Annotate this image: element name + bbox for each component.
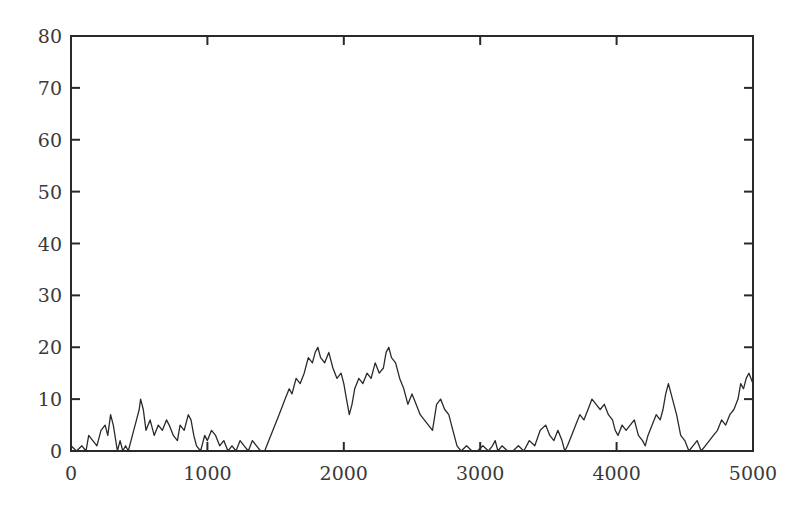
axis-ticks [71,36,753,451]
y-tick-label: 30 [38,284,62,306]
plot-frame [71,36,753,451]
line-chart: 01020304050607080 010002000300040005000 [0,0,809,511]
x-tick-label: 0 [65,462,77,484]
y-tick-label: 0 [50,440,62,462]
x-tick-label: 1000 [183,462,231,484]
plot-border [71,36,753,451]
y-tick-label: 10 [38,388,62,410]
y-tick-label: 50 [38,181,62,203]
y-axis-tick-labels: 01020304050607080 [38,25,62,462]
y-tick-label: 80 [38,25,62,47]
y-tick-label: 60 [38,129,62,151]
x-axis-tick-labels: 010002000300040005000 [65,462,777,484]
x-tick-label: 5000 [729,462,777,484]
x-tick-label: 4000 [592,462,640,484]
x-tick-label: 2000 [320,462,368,484]
y-tick-label: 20 [38,336,62,358]
y-tick-label: 40 [38,233,62,255]
data-series-line [71,347,753,451]
y-tick-label: 70 [38,77,62,99]
x-tick-label: 3000 [456,462,504,484]
